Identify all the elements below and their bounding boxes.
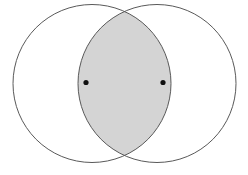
diagram-svg: [0, 0, 248, 175]
diagram-canvas: [0, 0, 248, 175]
intersection-point-right: [160, 80, 165, 85]
intersection-point-left: [83, 80, 88, 85]
